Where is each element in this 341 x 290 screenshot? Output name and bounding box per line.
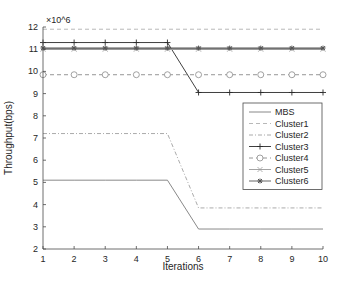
plus-marker <box>71 40 77 46</box>
circle-marker <box>227 72 233 78</box>
x-axis-label: Iterations <box>162 261 203 272</box>
x-tick-label: 8 <box>258 254 263 264</box>
circle-marker <box>164 72 170 78</box>
plus-marker <box>320 89 326 95</box>
y-tick-label: 9 <box>33 89 38 99</box>
plus-marker <box>227 89 233 95</box>
legend-label: Cluster3 <box>275 142 309 152</box>
y-tick-label: 2 <box>33 244 38 254</box>
circle-marker <box>258 72 264 78</box>
series-cluster4 <box>40 72 326 78</box>
star-marker <box>103 46 108 51</box>
circle-marker <box>289 72 295 78</box>
x-tick-label: 9 <box>289 254 294 264</box>
plus-marker <box>133 40 139 46</box>
y-tick-label: 6 <box>33 155 38 165</box>
x-tick-label: 4 <box>134 254 139 264</box>
y-tick-label: 5 <box>33 177 38 187</box>
x-tick-label: 2 <box>72 254 77 264</box>
plus-marker <box>164 40 170 46</box>
x-tick-label: 3 <box>103 254 108 264</box>
plus-marker <box>102 40 108 46</box>
y-tick-label: 4 <box>33 200 38 210</box>
x-tick-label: 7 <box>227 254 232 264</box>
circle-marker <box>196 72 202 78</box>
star-marker <box>289 46 294 51</box>
y-tick-label: 8 <box>33 111 38 121</box>
star-marker <box>258 46 263 51</box>
plus-marker <box>258 89 264 95</box>
star-marker <box>227 46 232 51</box>
y-tick-label: 10 <box>28 66 38 76</box>
y-tick-label: 3 <box>33 222 38 232</box>
circle-marker <box>320 72 326 78</box>
y-tick-label: 12 <box>28 22 38 32</box>
legend-label: Cluster1 <box>275 119 309 129</box>
circle-marker <box>133 72 139 78</box>
plus-marker <box>289 89 295 95</box>
x-tick-label: 10 <box>318 254 328 264</box>
star-marker <box>258 179 263 184</box>
x-tick-label: 1 <box>40 254 45 264</box>
legend: MBSCluster1Cluster2Cluster3Cluster4Clust… <box>243 103 322 190</box>
series-line <box>43 43 323 93</box>
throughput-line-chart: 1234567891023456789101112 ×10^6 Iteratio… <box>0 0 341 290</box>
y-tick-label: 11 <box>29 44 38 54</box>
star-marker <box>321 46 326 51</box>
legend-label: Cluster5 <box>275 165 309 175</box>
star-marker <box>196 46 201 51</box>
legend-label: Cluster4 <box>275 153 309 163</box>
legend-label: Cluster6 <box>275 176 309 186</box>
y-axis-label: Throughput(bps) <box>3 101 14 175</box>
star-marker <box>72 46 77 51</box>
y-exponent-label: ×10^6 <box>46 15 71 25</box>
circle-marker <box>71 72 77 78</box>
legend-label: Cluster2 <box>275 130 309 140</box>
legend-label: MBS <box>275 107 295 117</box>
y-tick-label: 7 <box>33 133 38 143</box>
plus-marker <box>196 89 202 95</box>
star-marker <box>165 46 170 51</box>
star-marker <box>134 46 139 51</box>
circle-marker <box>257 155 263 161</box>
circle-marker <box>102 72 108 78</box>
